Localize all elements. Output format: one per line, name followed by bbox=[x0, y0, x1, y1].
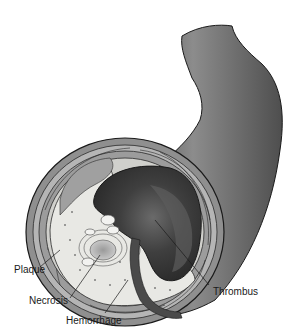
artery-illustration: Plaque Necrosis Hemorrhage Thrombus bbox=[0, 0, 300, 333]
label-hemorrhage: Hemorrhage bbox=[66, 316, 122, 326]
label-plaque: Plaque bbox=[14, 265, 45, 275]
label-thrombus: Thrombus bbox=[213, 287, 258, 297]
label-necrosis: Necrosis bbox=[29, 296, 68, 306]
artery-cross-section-drawing bbox=[0, 0, 300, 333]
